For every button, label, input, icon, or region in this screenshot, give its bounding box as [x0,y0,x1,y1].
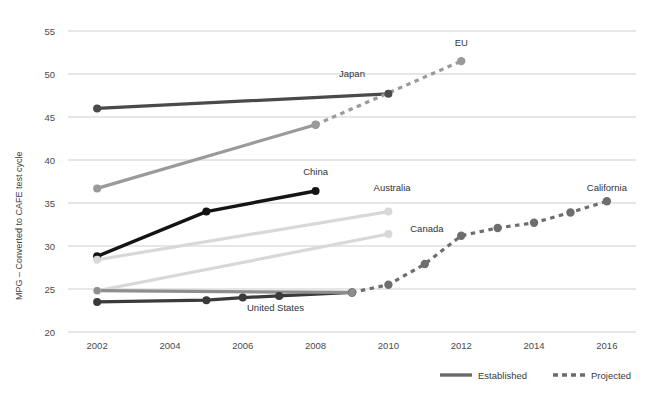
x-tick-label: 2004 [159,340,180,351]
series-label: Australia [374,182,412,193]
legend-label-projected: Projected [591,370,631,381]
y-tick-label: 40 [44,155,55,166]
data-point [384,90,392,98]
series-label: California [587,182,628,193]
x-tick-label: 2016 [596,340,617,351]
line-chart: 2025303540455055 20022004200620082010201… [0,0,645,402]
x-tick-label: 2006 [232,340,253,351]
y-tick-label: 25 [44,284,55,295]
data-point [457,231,465,239]
data-point [384,230,392,238]
series-label: China [303,166,329,177]
data-point [311,121,319,129]
data-point [312,187,320,195]
data-point [93,184,101,192]
x-tick-label: 2008 [305,340,326,351]
data-point [348,289,355,296]
x-tick-label: 2002 [87,340,108,351]
data-point [94,287,101,294]
series-label: United States [247,302,304,313]
data-point [603,197,611,205]
data-point [202,296,210,304]
series-label: Canada [410,223,444,234]
chart-container: 2025303540455055 20022004200620082010201… [0,0,645,402]
data-point [421,260,429,268]
data-point [457,57,465,65]
data-point [384,281,392,289]
data-point [93,104,101,112]
data-point [93,298,101,306]
data-point [493,224,501,232]
y-axis-title: MPG – Converted to CAFE test cycle [14,151,24,300]
x-tick-label: 2012 [451,340,472,351]
data-point [530,219,538,227]
series-label: Japan [339,68,365,79]
y-tick-label: 35 [44,198,55,209]
x-tick-label: 2010 [378,340,399,351]
y-tick-label: 55 [44,26,55,37]
data-point [202,208,210,216]
y-axis-title-group: MPG – Converted to CAFE test cycle [14,151,24,300]
y-tick-label: 30 [44,241,55,252]
data-point [93,256,101,264]
data-point [275,292,283,300]
y-tick-label: 45 [44,112,55,123]
x-tick-label: 2014 [523,340,544,351]
data-point [239,294,247,302]
series-label: EU [455,37,468,48]
series-line [97,291,352,293]
y-tick-label: 50 [44,69,55,80]
data-point [384,208,392,216]
data-point [566,208,574,216]
legend-label-established: Established [478,370,527,381]
y-tick-label: 20 [44,327,55,338]
